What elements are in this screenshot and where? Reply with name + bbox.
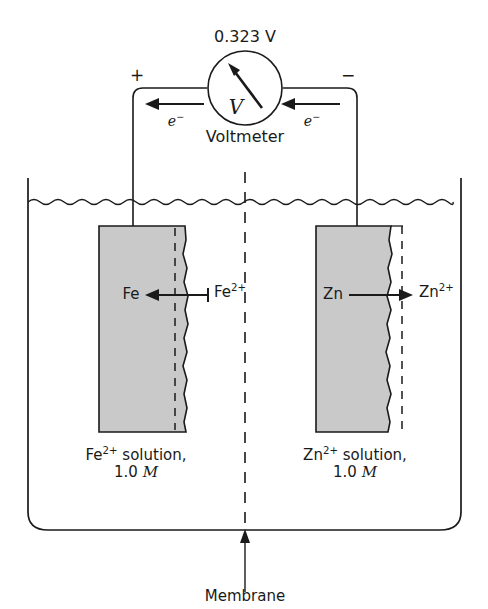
zinc-electrode bbox=[316, 226, 392, 432]
figure-canvas: 0.323 V V Voltmeter + − e− e− Fe Fe2+ Zn… bbox=[0, 0, 488, 609]
voltage-reading: 0.323 V bbox=[214, 28, 276, 46]
iron-concentration: 1.0 M bbox=[85, 464, 186, 481]
iron-ion-symbol: Fe bbox=[214, 283, 231, 301]
iron-concentration-value: 1.0 bbox=[114, 463, 138, 481]
electrochemical-cell-drawing bbox=[0, 0, 488, 609]
voltmeter-symbol: V bbox=[229, 96, 243, 119]
iron-solution-charge: 2+ bbox=[103, 445, 118, 456]
membrane-label: Membrane bbox=[205, 588, 285, 605]
left-electron-arrow-head bbox=[145, 98, 159, 110]
zinc-ion-symbol: Zn bbox=[419, 283, 439, 301]
iron-solution-label: Fe2+ solution, 1.0 M bbox=[85, 447, 186, 482]
zinc-solution-name: Zn2+ solution, bbox=[303, 447, 407, 464]
membrane-pointer-head bbox=[240, 529, 250, 543]
voltmeter-dial bbox=[208, 51, 282, 125]
left-electron-charge: − bbox=[176, 111, 184, 122]
negative-terminal-label: − bbox=[341, 66, 355, 86]
iron-electrode-label: Fe bbox=[122, 286, 139, 303]
zinc-solution-label: Zn2+ solution, 1.0 M bbox=[303, 447, 407, 482]
iron-concentration-unit: M bbox=[143, 463, 158, 481]
iron-electrode bbox=[99, 226, 188, 432]
zinc-ion-charge: 2+ bbox=[439, 282, 454, 293]
right-electron-arrow-head bbox=[281, 98, 295, 110]
zinc-electrode-label: Zn bbox=[323, 286, 343, 303]
zinc-reaction-arrow-head bbox=[399, 289, 413, 301]
right-electron-charge: − bbox=[312, 111, 320, 122]
zinc-ion-label: Zn2+ bbox=[419, 284, 454, 301]
positive-terminal-label: + bbox=[130, 66, 144, 86]
iron-solution-name: Fe2+ solution, bbox=[85, 447, 186, 464]
water-surface-line bbox=[28, 200, 453, 205]
iron-ion-charge: 2+ bbox=[231, 282, 246, 293]
zinc-concentration: 1.0 M bbox=[303, 464, 407, 481]
iron-ion-label: Fe2+ bbox=[214, 284, 246, 301]
zinc-solution-charge: 2+ bbox=[323, 445, 338, 456]
voltmeter-caption: Voltmeter bbox=[206, 128, 284, 146]
zinc-concentration-value: 1.0 bbox=[333, 463, 357, 481]
right-electron-label: e− bbox=[304, 113, 320, 129]
iron-solution-symbol: Fe bbox=[85, 446, 102, 464]
zinc-solution-word: solution, bbox=[338, 446, 407, 464]
iron-solution-word: solution, bbox=[118, 446, 187, 464]
zinc-solution-symbol: Zn bbox=[303, 446, 323, 464]
zinc-concentration-unit: M bbox=[362, 463, 377, 481]
left-electron-label: e− bbox=[168, 113, 184, 129]
